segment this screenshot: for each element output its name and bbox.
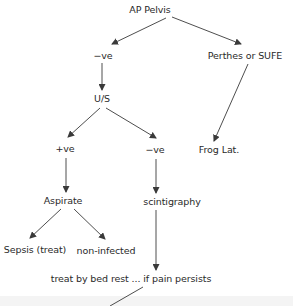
node-frog-lateral: Frog Lat. <box>199 145 239 155</box>
edge-appelvis-perthes <box>172 17 241 44</box>
node-ap-pelvis: AP Pelvis <box>129 5 170 15</box>
node-perthes-sufe: Perthes or SUFE <box>208 51 282 61</box>
edge-perthes-frog <box>214 64 248 141</box>
node-bed-rest: treat by bed rest ... if pain persists <box>51 274 211 284</box>
node-negative-1: −ve <box>93 51 112 61</box>
node-negative-2: −ve <box>145 145 164 155</box>
node-scintigraphy: scintigraphy <box>143 197 200 207</box>
edge-us-neg <box>106 108 156 138</box>
node-sepsis: Sepsis (treat) <box>4 245 66 255</box>
edge-aspirate-sepsis <box>30 209 61 238</box>
node-non-infected: non-infected <box>77 246 136 256</box>
node-aspirate: Aspirate <box>44 196 83 206</box>
node-positive: +ve <box>55 144 74 154</box>
edge-appelvis-neg <box>112 18 166 44</box>
node-ultrasound: U/S <box>94 94 110 104</box>
edge-bedrest-continue <box>110 287 143 306</box>
edge-aspirate-noninf <box>74 209 105 239</box>
edge-us-pos <box>68 108 100 137</box>
